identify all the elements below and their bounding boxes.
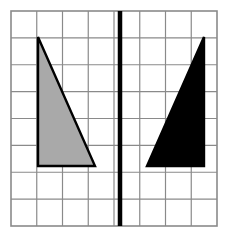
gray-triangle <box>38 37 95 166</box>
black-triangle <box>147 37 204 166</box>
diagram-canvas: Reflection of a right triangle across a … <box>0 0 228 236</box>
reflection-diagram <box>0 0 228 236</box>
